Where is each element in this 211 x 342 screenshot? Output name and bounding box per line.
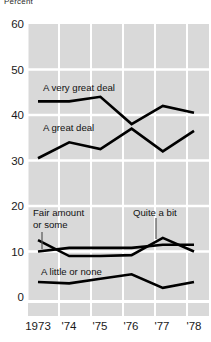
- y-tick-50: 50: [11, 64, 24, 76]
- annotation-a-little-or-none: A little or none: [41, 266, 102, 277]
- y-tick-0: 0: [18, 291, 24, 303]
- annotation-fair-amount-line-1: Fair amount: [33, 207, 85, 218]
- annotation-a-very-great-deal: A very great deal: [43, 82, 115, 93]
- annotation-fair-amount-line-2: or some: [33, 219, 68, 230]
- x-tick-76: '76: [124, 320, 139, 332]
- y-tick-40: 40: [11, 109, 24, 121]
- annotation-quite-a-bit: Quite a bit: [133, 207, 177, 218]
- y-tick-60: 60: [11, 18, 24, 30]
- y-tick-20: 20: [11, 200, 24, 212]
- line-chart: 60 50 40 30 20 10 0 A very great deal A …: [0, 0, 211, 342]
- x-tick-74: '74: [62, 320, 78, 332]
- y-axis-tick-labels: 60 50 40 30 20 10 0: [11, 18, 24, 303]
- annotation-a-great-deal: A great deal: [43, 122, 94, 133]
- y-axis-unit-label-cropped: Percent: [4, 0, 33, 4]
- x-tick-77: '77: [155, 320, 170, 332]
- chart-container: Percent: [0, 0, 211, 342]
- y-tick-10: 10: [11, 246, 24, 258]
- x-tick-78: '78: [187, 320, 202, 332]
- x-tick-75: '75: [93, 320, 108, 332]
- x-axis-tick-labels: 1973 '74 '75 '76 '77 '78: [25, 320, 201, 332]
- x-tick-1973: 1973: [25, 320, 51, 332]
- y-tick-30: 30: [11, 155, 24, 167]
